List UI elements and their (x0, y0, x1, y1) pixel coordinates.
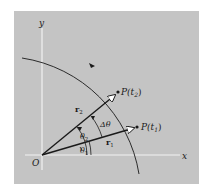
origin-label: O (32, 158, 40, 168)
label-p2: P(t2) (120, 87, 142, 98)
y-axis-label: y (38, 18, 45, 28)
label-p1: P(t1) (140, 122, 162, 133)
polar-motion-figure: y x O P(t2) P(t1) r2 r1 θ2 θ1 Δθ (0, 0, 209, 193)
point-p1 (135, 125, 138, 128)
label-delta-theta: Δθ (99, 120, 111, 129)
x-axis-label: x (182, 151, 187, 161)
diagram-canvas: y x O P(t2) P(t1) r2 r1 θ2 θ1 Δθ (0, 0, 209, 193)
point-p2 (116, 90, 119, 93)
